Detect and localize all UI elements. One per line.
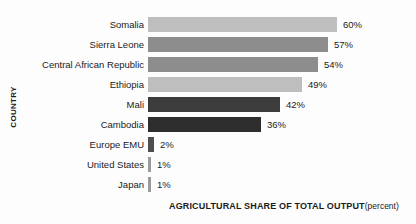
value-label: 36% — [267, 116, 286, 133]
bar-track — [148, 177, 151, 192]
bar — [148, 37, 328, 52]
value-label: 1% — [157, 176, 171, 193]
bar — [148, 177, 151, 192]
bar-track — [148, 37, 328, 52]
bar — [148, 117, 261, 132]
plot-area: Somalia60%Sierra Leone57%Central African… — [0, 0, 416, 196]
bar-track — [148, 97, 280, 112]
category-label: Somalia — [110, 16, 144, 33]
category-label: Ethiopia — [110, 76, 144, 93]
category-label: United States — [87, 156, 144, 173]
value-label: 54% — [324, 56, 343, 73]
x-axis-title-unit: (percent) — [365, 201, 399, 211]
bar-row: Ethiopia49% — [0, 76, 416, 93]
bar — [148, 17, 337, 32]
bar — [148, 77, 302, 92]
bar — [148, 157, 151, 172]
category-label: Japan — [118, 176, 144, 193]
category-label: Europe EMU — [90, 136, 144, 153]
value-label: 1% — [157, 156, 171, 173]
x-axis-title: AGRICULTURAL SHARE OF TOTAL OUTPUT(perce… — [169, 199, 399, 213]
bar-track — [148, 57, 318, 72]
bar-row: Japan1% — [0, 176, 416, 193]
value-label: 60% — [343, 16, 362, 33]
bar-row: Central African Republic54% — [0, 56, 416, 73]
bar-row: Somalia60% — [0, 16, 416, 33]
value-label: 57% — [334, 36, 353, 53]
bar-row: Mali42% — [0, 96, 416, 113]
bar-track — [148, 117, 261, 132]
category-label: Central African Republic — [42, 56, 144, 73]
category-label: Cambodia — [101, 116, 144, 133]
category-label: Sierra Leone — [90, 36, 144, 53]
bar-row: Cambodia36% — [0, 116, 416, 133]
value-label: 42% — [286, 96, 305, 113]
bar-row: United States1% — [0, 156, 416, 173]
bar-track — [148, 77, 302, 92]
bar-track — [148, 157, 151, 172]
bar — [148, 97, 280, 112]
category-label: Mali — [127, 96, 144, 113]
value-label: 2% — [160, 136, 174, 153]
x-axis-title-text: AGRICULTURAL SHARE OF TOTAL OUTPUT — [169, 201, 365, 211]
bar — [148, 57, 318, 72]
value-label: 49% — [308, 76, 327, 93]
bar-row: Europe EMU2% — [0, 136, 416, 153]
bar-track — [148, 137, 154, 152]
bar-chart: COUNTRY Somalia60%Sierra Leone57%Central… — [0, 0, 416, 224]
bar-track — [148, 17, 337, 32]
bar — [148, 137, 154, 152]
bar-row: Sierra Leone57% — [0, 36, 416, 53]
